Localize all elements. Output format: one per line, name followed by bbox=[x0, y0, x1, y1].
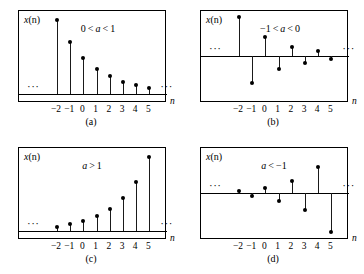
sample-point-d-n3 bbox=[303, 208, 307, 212]
panel-c: x(n) a > 1 ······ −2−1012345 n (c) bbox=[0, 137, 182, 274]
stem-area-c: ······ bbox=[19, 148, 167, 240]
stem-a-n1 bbox=[97, 69, 98, 94]
sample-point-c-n3 bbox=[121, 196, 125, 200]
tick-labels-b: −2−1012345 bbox=[200, 103, 348, 116]
x-axis-label-b: n bbox=[352, 96, 357, 107]
sample-point-b-n1 bbox=[277, 67, 281, 71]
panel-b: x(n) −1 < a < 0 ······ −2−1012345 n (b) bbox=[182, 0, 364, 137]
tick-labels-a: −2−1012345 bbox=[18, 103, 166, 116]
stem-b-n-2 bbox=[239, 17, 240, 56]
tick-label-a-n2: 2 bbox=[106, 103, 111, 115]
plot-frame-a: x(n) 0 < a < 1 ······ bbox=[18, 10, 166, 102]
axis-line-d bbox=[201, 193, 349, 194]
axis-line-b bbox=[201, 56, 349, 57]
stem-area-b: ······ bbox=[201, 11, 349, 103]
panel-caption-c: (c) bbox=[0, 253, 182, 265]
stem-c-n4 bbox=[136, 182, 137, 231]
panel-caption-d: (d) bbox=[182, 253, 364, 265]
panel-caption-b: (b) bbox=[182, 116, 364, 128]
tick-label-d-n0: 0 bbox=[262, 240, 267, 252]
panel-caption-a: (a) bbox=[0, 116, 182, 128]
axis-line-a bbox=[19, 94, 167, 95]
x-axis-label-d: n bbox=[352, 233, 357, 244]
x-axis-label-c: n bbox=[170, 233, 175, 244]
sample-point-d-n2 bbox=[290, 179, 294, 183]
sample-point-d-n0 bbox=[263, 186, 267, 190]
stem-d-n4 bbox=[318, 167, 319, 193]
tick-label-b-n2: 2 bbox=[288, 103, 293, 115]
tick-label-d-n2: 2 bbox=[288, 240, 293, 252]
x-axis-label-a: n bbox=[170, 96, 175, 107]
stem-a-n-2 bbox=[57, 20, 58, 94]
stem-c-n1 bbox=[97, 216, 98, 231]
tick-label-a-n3: 3 bbox=[120, 103, 125, 115]
tick-label-a-n-1: −1 bbox=[64, 103, 74, 115]
tick-label-c-n5: 5 bbox=[146, 240, 151, 252]
sample-point-d-n-1 bbox=[250, 194, 254, 198]
sample-point-b-n2 bbox=[290, 45, 294, 49]
panel-a: x(n) 0 < a < 1 ······ −2−1012345 n (a) bbox=[0, 0, 182, 137]
exponential-sequences-figure: x(n) 0 < a < 1 ······ −2−1012345 n (a) x… bbox=[0, 0, 364, 274]
tick-labels-d: −2−1012345 bbox=[200, 240, 348, 253]
sample-point-d-n-2 bbox=[237, 189, 241, 193]
stem-c-n5 bbox=[149, 157, 150, 231]
tick-label-c-n1: 1 bbox=[93, 240, 98, 252]
ellipsis-right-d: ··· bbox=[342, 182, 355, 188]
sample-point-c-n5 bbox=[147, 155, 151, 159]
tick-label-b-n4: 4 bbox=[315, 103, 320, 115]
stem-d-n2 bbox=[292, 181, 293, 193]
tick-label-b-n1: 1 bbox=[275, 103, 280, 115]
plot-frame-c: x(n) a > 1 ······ bbox=[18, 147, 166, 239]
ellipsis-right-a: ··· bbox=[160, 83, 173, 89]
sample-point-d-n1 bbox=[277, 199, 281, 203]
plot-frame-b: x(n) −1 < a < 0 ······ bbox=[200, 10, 348, 102]
tick-label-b-n0: 0 bbox=[262, 103, 267, 115]
tick-label-c-n2: 2 bbox=[106, 240, 111, 252]
sample-point-c-n-1 bbox=[68, 222, 72, 226]
tick-label-b-n-1: −1 bbox=[246, 103, 256, 115]
tick-label-c-n3: 3 bbox=[120, 240, 125, 252]
tick-label-b-n3: 3 bbox=[302, 103, 307, 115]
stem-d-n5 bbox=[331, 193, 332, 232]
sample-point-c-n0 bbox=[81, 219, 85, 223]
sample-point-c-n2 bbox=[108, 207, 112, 211]
tick-label-c-n-1: −1 bbox=[64, 240, 74, 252]
tick-label-d-n-1: −1 bbox=[246, 240, 256, 252]
stem-b-n0 bbox=[265, 37, 266, 56]
sample-point-a-n5 bbox=[147, 86, 151, 90]
tick-label-d-n1: 1 bbox=[275, 240, 280, 252]
axis-line-c bbox=[19, 231, 167, 232]
tick-label-a-n1: 1 bbox=[93, 103, 98, 115]
tick-label-c-n4: 4 bbox=[133, 240, 138, 252]
stem-area-d: ······ bbox=[201, 148, 349, 240]
sample-point-b-n-2 bbox=[237, 15, 241, 19]
tick-label-d-n-2: −2 bbox=[233, 240, 243, 252]
tick-label-d-n5: 5 bbox=[328, 240, 333, 252]
sample-point-b-n3 bbox=[303, 61, 307, 65]
ellipsis-left-c: ··· bbox=[27, 220, 40, 226]
stem-area-a: ······ bbox=[19, 11, 167, 103]
ellipsis-right-b: ··· bbox=[342, 45, 355, 51]
tick-label-a-n5: 5 bbox=[146, 103, 151, 115]
tick-label-a-n-2: −2 bbox=[51, 103, 61, 115]
plot-frame-d: x(n) a < −1 ······ bbox=[200, 147, 348, 239]
sample-point-a-n-2 bbox=[55, 18, 59, 22]
sample-point-b-n0 bbox=[263, 35, 267, 39]
sample-point-a-n1 bbox=[95, 67, 99, 71]
stem-c-n2 bbox=[110, 209, 111, 231]
sample-point-b-n5 bbox=[329, 57, 333, 61]
sample-point-c-n1 bbox=[95, 214, 99, 218]
sample-point-c-n4 bbox=[134, 180, 138, 184]
tick-label-a-n0: 0 bbox=[80, 103, 85, 115]
stem-a-n0 bbox=[83, 58, 84, 94]
tick-label-c-n0: 0 bbox=[80, 240, 85, 252]
sample-point-c-n-2 bbox=[55, 225, 59, 229]
tick-labels-c: −2−1012345 bbox=[18, 240, 166, 253]
panel-d: x(n) a < −1 ······ −2−1012345 n (d) bbox=[182, 137, 364, 274]
tick-label-a-n4: 4 bbox=[133, 103, 138, 115]
ellipsis-right-c: ··· bbox=[160, 220, 173, 226]
sample-point-b-n4 bbox=[316, 49, 320, 53]
ellipsis-left-b: ··· bbox=[209, 45, 222, 51]
tick-label-d-n3: 3 bbox=[302, 240, 307, 252]
tick-label-d-n4: 4 bbox=[315, 240, 320, 252]
